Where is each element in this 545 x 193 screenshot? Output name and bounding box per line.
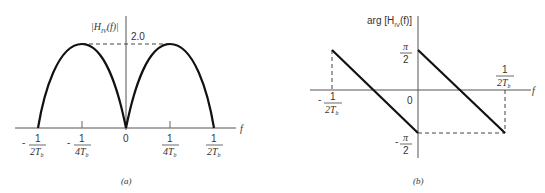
panel-a-label-neg-quarter: - 1 4Tb bbox=[67, 133, 91, 158]
svg-text:-: - bbox=[67, 137, 70, 148]
panel-a-left-arch bbox=[38, 44, 126, 128]
svg-text:2: 2 bbox=[403, 145, 409, 156]
svg-text:2Tb: 2Tb bbox=[207, 146, 221, 158]
svg-text:1: 1 bbox=[502, 64, 508, 75]
panel-a-peak-value-label: 2.0 bbox=[131, 31, 145, 42]
panel-a-caption: (a) bbox=[121, 176, 132, 186]
panel-a-x-axis-label: f bbox=[240, 123, 244, 134]
svg-text:-: - bbox=[318, 94, 321, 105]
svg-text:π: π bbox=[403, 132, 409, 143]
panel-a-label-pos-half: 1 2Tb bbox=[206, 133, 223, 158]
svg-text:2: 2 bbox=[403, 54, 409, 65]
svg-text:1: 1 bbox=[167, 133, 173, 144]
panel-a-right-arch bbox=[126, 44, 214, 128]
panel-b-right-phase-line bbox=[418, 50, 505, 133]
panel-a-label-pos-quarter: 1 4Tb bbox=[162, 133, 179, 158]
svg-text:4Tb: 4Tb bbox=[75, 146, 89, 158]
svg-text:2Tb: 2Tb bbox=[30, 146, 44, 158]
panel-a-y-axis-label: |HIV(f)| bbox=[91, 21, 119, 34]
panel-b-origin-label: 0 bbox=[407, 95, 413, 106]
svg-text:1: 1 bbox=[79, 133, 85, 144]
panel-b-label-neg-pi-over-2: - π 2 bbox=[395, 132, 412, 156]
panel-a-magnitude-plot: |HIV(f)| 2.0 f 0 - 1 2Tb - 1 4Tb 1 4Tb bbox=[15, 16, 244, 186]
svg-text:2Tb: 2Tb bbox=[325, 104, 339, 116]
panel-b-x-axis-label: f bbox=[532, 85, 536, 96]
svg-text:4Tb: 4Tb bbox=[163, 146, 177, 158]
svg-text:1: 1 bbox=[211, 133, 217, 144]
svg-text:π: π bbox=[403, 41, 409, 52]
svg-text:-: - bbox=[395, 136, 398, 147]
panel-b-y-axis-label: arg [HIV(f)] bbox=[367, 15, 412, 28]
panel-a-origin-label: 0 bbox=[123, 133, 129, 144]
svg-text:2Tb: 2Tb bbox=[497, 77, 511, 89]
svg-text:1: 1 bbox=[35, 133, 41, 144]
panel-b-phase-plot: arg [HIV(f)] π 2 - π 2 0 f - 1 2Tb 1 bbox=[310, 15, 536, 186]
panel-b-label-pos-half: 1 2Tb bbox=[496, 64, 514, 89]
panel-b-caption: (b) bbox=[413, 176, 424, 186]
panel-b-label-pos-pi-over-2: π 2 bbox=[400, 41, 412, 65]
panel-a-label-neg-half: - 1 2Tb bbox=[22, 133, 46, 158]
svg-text:1: 1 bbox=[330, 91, 336, 102]
figure: |HIV(f)| 2.0 f 0 - 1 2Tb - 1 4Tb 1 4Tb bbox=[0, 0, 545, 193]
svg-text:-: - bbox=[22, 137, 25, 148]
panel-b-label-neg-half: - 1 2Tb bbox=[318, 91, 342, 116]
